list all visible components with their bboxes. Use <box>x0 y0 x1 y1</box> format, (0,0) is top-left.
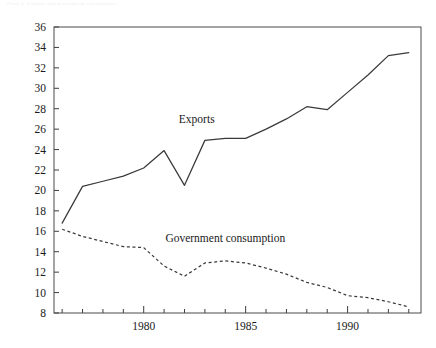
y-tick-label: 32 <box>35 62 47 74</box>
chart-figure: Chart 4. Exports and government consumpt… <box>0 0 436 348</box>
series-label-exports: Exports <box>179 113 215 126</box>
y-tick-label: 14 <box>35 246 47 258</box>
data-series <box>62 53 409 307</box>
x-tick-label: 1985 <box>234 320 257 332</box>
y-tick-label: 22 <box>35 164 47 176</box>
series-line-exports <box>62 53 409 224</box>
y-tick-label: 34 <box>35 41 47 53</box>
y-tick-label: 28 <box>35 103 47 115</box>
y-tick-label: 18 <box>35 205 47 217</box>
y-tick-label: 20 <box>35 184 47 196</box>
x-axis-ticks: 198019851990 <box>62 306 409 332</box>
x-tick-label: 1990 <box>336 320 359 332</box>
line-chart-svg: 81012141618202224262830323436 1980198519… <box>0 0 436 348</box>
y-tick-label: 24 <box>35 144 47 156</box>
y-axis-ticks: 81012141618202224262830323436 <box>35 21 60 319</box>
y-tick-label: 10 <box>35 287 47 299</box>
y-tick-label: 36 <box>35 21 47 33</box>
series-label-government-consumption: Government consumption <box>165 232 285 245</box>
series-annotations: ExportsGovernment consumption <box>165 113 285 244</box>
y-tick-label: 30 <box>35 82 47 94</box>
y-tick-label: 26 <box>35 123 47 135</box>
top-note: Chart 4. Exports and government consumpt… <box>6 1 117 6</box>
plot-frame <box>54 27 421 313</box>
y-tick-label: 16 <box>35 225 47 237</box>
y-tick-label: 8 <box>40 307 46 319</box>
x-tick-label: 1980 <box>132 320 155 332</box>
y-tick-label: 12 <box>35 266 47 278</box>
